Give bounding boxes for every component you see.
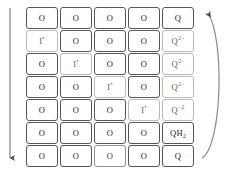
species-label: Q2− bbox=[172, 37, 185, 46]
grid-cell-r7c5: Q bbox=[162, 145, 194, 167]
species-label: Q2− bbox=[172, 83, 185, 92]
species-label: O bbox=[73, 83, 79, 92]
species-label: O bbox=[39, 14, 45, 23]
grid-cell-r5c5: Q−2 bbox=[162, 99, 194, 121]
species-label: O bbox=[141, 37, 147, 46]
grid-cell-r1c2: O bbox=[60, 7, 92, 29]
species-label: O bbox=[141, 60, 147, 69]
grid-cell-r1c3: O bbox=[94, 7, 126, 29]
grid-cell-r7c2: O bbox=[60, 145, 92, 167]
species-label: O bbox=[39, 83, 45, 92]
species-label: O bbox=[39, 129, 45, 138]
species-label: QH2 bbox=[170, 129, 186, 138]
species-label: O bbox=[107, 152, 113, 161]
grid-cell-r3c1: O bbox=[26, 53, 58, 75]
species-label: O bbox=[107, 37, 113, 46]
species-label: Q−2 bbox=[172, 106, 185, 115]
grid-cell-r2c2: O bbox=[60, 30, 92, 52]
species-label: O bbox=[39, 106, 45, 115]
species-label: I• bbox=[73, 60, 79, 69]
grid-cell-r4c2: O bbox=[60, 76, 92, 98]
species-label: Q bbox=[175, 152, 181, 161]
species-label: O bbox=[73, 152, 79, 161]
grid-cell-r2c3: O bbox=[94, 30, 126, 52]
species-label: O bbox=[107, 60, 113, 69]
grid-cell-r2c1: I• bbox=[26, 30, 58, 52]
grid-cell-r5c1: O bbox=[26, 99, 58, 121]
grid-cell-r7c1: O bbox=[26, 145, 58, 167]
grid-cell-r4c4: O bbox=[128, 76, 160, 98]
grid-cell-r7c3: O bbox=[94, 145, 126, 167]
grid-cell-r1c1: O bbox=[26, 7, 58, 29]
grid-cell-r6c5: QH2 bbox=[162, 122, 194, 144]
grid-cell-r1c4: O bbox=[128, 7, 160, 29]
grid-cell-r5c3: O bbox=[94, 99, 126, 121]
redox-grid-diagram: O O O O Q I• O O O Q2− O I• O O Q2− O O … bbox=[0, 0, 227, 172]
recycle-arrow bbox=[196, 0, 227, 172]
species-label: O bbox=[107, 14, 113, 23]
grid-cell-r4c5: Q2− bbox=[162, 76, 194, 98]
species-label: Q2− bbox=[172, 60, 185, 69]
grid-cell-r5c4: I• bbox=[128, 99, 160, 121]
species-label: O bbox=[141, 83, 147, 92]
species-label: O bbox=[141, 129, 147, 138]
species-label: O bbox=[141, 152, 147, 161]
species-label: O bbox=[73, 37, 79, 46]
grid-cell-r2c5: Q2− bbox=[162, 30, 194, 52]
grid-cell-r2c4: O bbox=[128, 30, 160, 52]
grid-cell-r6c1: O bbox=[26, 122, 58, 144]
time-progression-arrow bbox=[0, 0, 24, 172]
grid-cell-r4c1: O bbox=[26, 76, 58, 98]
grid-cell-r6c4: O bbox=[128, 122, 160, 144]
grid-cell-r7c4: O bbox=[128, 145, 160, 167]
species-label: I• bbox=[141, 106, 147, 115]
species-label: O bbox=[39, 60, 45, 69]
recycle-arrow-path bbox=[202, 13, 219, 158]
species-label: O bbox=[107, 106, 113, 115]
grid-cell-r3c5: Q2− bbox=[162, 53, 194, 75]
species-label: O bbox=[107, 129, 113, 138]
grid-cell-r3c4: O bbox=[128, 53, 160, 75]
species-label: O bbox=[73, 106, 79, 115]
species-label: I• bbox=[107, 83, 113, 92]
species-label: O bbox=[73, 129, 79, 138]
grid-cell-r6c3: O bbox=[94, 122, 126, 144]
species-grid: O O O O Q I• O O O Q2− O I• O O Q2− O O … bbox=[24, 7, 196, 167]
species-label: O bbox=[73, 14, 79, 23]
species-label: O bbox=[39, 152, 45, 161]
species-label: O bbox=[141, 14, 147, 23]
species-label: I• bbox=[39, 37, 45, 46]
grid-cell-r1c5: Q bbox=[162, 7, 194, 29]
grid-cell-r4c3: I• bbox=[94, 76, 126, 98]
grid-cell-r3c2: I• bbox=[60, 53, 92, 75]
grid-cell-r5c2: O bbox=[60, 99, 92, 121]
grid-cell-r3c3: O bbox=[94, 53, 126, 75]
species-label: Q bbox=[175, 14, 181, 23]
grid-cell-r6c2: O bbox=[60, 122, 92, 144]
